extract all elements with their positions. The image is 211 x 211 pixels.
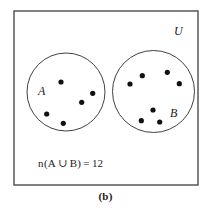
venn-diagram-figure: U A B n(A∪B)=12 (b) — [0, 0, 211, 211]
element-dot — [58, 79, 63, 84]
figure-caption: (b) — [0, 190, 211, 202]
set-a-label: A — [37, 84, 46, 98]
element-dot — [165, 70, 170, 75]
equation-set-b: B — [70, 157, 77, 169]
element-dot — [61, 121, 66, 126]
universe-label: U — [174, 24, 184, 38]
equation-close-paren: ) — [77, 157, 81, 170]
element-dot — [44, 111, 49, 116]
element-dot — [139, 118, 144, 123]
venn-diagram-canvas: U A B n(A∪B)=12 — [0, 0, 211, 211]
element-dot — [79, 100, 84, 105]
equation-equals: = — [83, 157, 89, 169]
equation-set-a: A — [48, 157, 56, 169]
svg-text:n(A∪B)=12: n(A∪B)=12 — [38, 157, 103, 170]
element-dot — [140, 73, 145, 78]
element-dot — [150, 107, 155, 112]
element-dot — [177, 81, 182, 86]
element-dot — [157, 119, 162, 124]
equation-value: 12 — [92, 157, 103, 169]
element-dot — [90, 91, 95, 96]
union-cardinality-equation: n(A∪B)=12 — [38, 157, 103, 170]
equation-union-operator: ∪ — [58, 157, 67, 169]
set-b-label: B — [170, 106, 178, 120]
element-dot — [127, 81, 132, 86]
